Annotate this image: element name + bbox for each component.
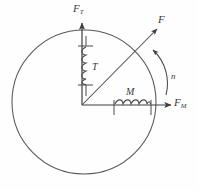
vertical-coil-label: T [92, 62, 98, 72]
diagram-canvas [0, 0, 198, 190]
resultant-force-label: F [158, 14, 165, 25]
force-diagram-figure: FT F FM T M n [0, 0, 198, 190]
horizontal-axis-label: FM [174, 97, 186, 108]
horizontal-coil-label: M [126, 87, 134, 97]
rotation-label: n [171, 72, 176, 81]
horizontal-coil [114, 100, 151, 115]
vertical-coil [78, 36, 93, 96]
vertical-axis-label: FT [73, 3, 84, 14]
